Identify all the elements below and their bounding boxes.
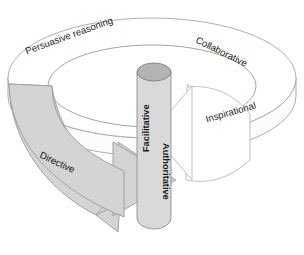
diagram-canvas: Persuasive reasoning Collaborative Inspi… — [0, 0, 304, 255]
cylinder-label-authoritative: Authoritative — [161, 143, 171, 200]
leadership-cycle-diagram: Persuasive reasoning Collaborative Inspi… — [0, 0, 304, 255]
cylinder-label-facilitative: Facilitative — [141, 105, 151, 153]
cylinder-top-ellipse — [137, 63, 171, 81]
